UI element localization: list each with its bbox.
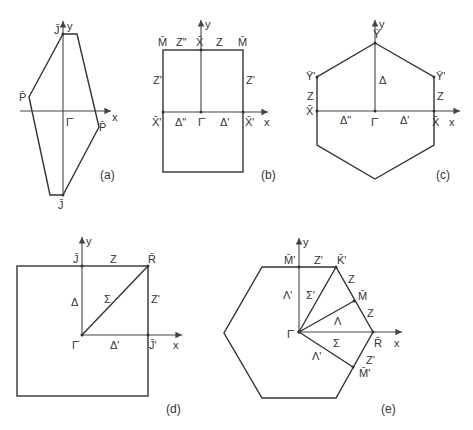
label-X-right-c: X̄ bbox=[432, 116, 440, 128]
caption-b: (b) bbox=[261, 168, 276, 182]
label-Z-right-c: Z bbox=[437, 90, 444, 102]
brillouin-zones-figure: J̄ y P̄ x Γ̄ P̄ J̄ (a) y M̄ Z" X̄ Z M̄ Z… bbox=[0, 0, 473, 430]
label-D1-d: Δ' bbox=[110, 339, 119, 351]
zone-boundary-a bbox=[29, 34, 99, 195]
label-D2-c: Δ" bbox=[340, 114, 351, 126]
label-X-left-c: X̄ bbox=[306, 105, 314, 117]
label-Y1-right: Ȳ' bbox=[436, 70, 445, 82]
label-Z-d: Z bbox=[110, 253, 117, 265]
label-y-d: y bbox=[86, 235, 92, 247]
panel-c: y Ȳ Ȳ' Ȳ' Δ Z Z X̄ Δ" Γ̄ Δ' X̄ x (c) bbox=[306, 18, 460, 182]
label-Gamma-d: Γ̄ bbox=[72, 339, 80, 351]
label-X-top: X̄ bbox=[196, 36, 204, 48]
label-Gamma-e: Γ̄ bbox=[287, 328, 295, 340]
label-P-right: P̄ bbox=[99, 121, 106, 133]
label-Gamma-a: Γ̄ bbox=[66, 116, 74, 128]
label-Z-b: Z bbox=[216, 36, 223, 48]
label-M-right: M̄ bbox=[238, 36, 247, 48]
label-Z1-top: Z' bbox=[314, 254, 323, 266]
label-x-b: x bbox=[264, 116, 270, 128]
label-Z-left-c: Z bbox=[307, 90, 314, 102]
label-J-top: J̄ bbox=[54, 24, 60, 36]
label-Gamma-c: Γ̄ bbox=[371, 116, 379, 128]
label-M-left: M̄ bbox=[158, 36, 167, 48]
label-D1-b: Δ' bbox=[220, 116, 229, 128]
label-Delta-d: Δ bbox=[71, 296, 79, 308]
label-x-a: x bbox=[112, 111, 118, 123]
zone-boundary-b bbox=[163, 50, 243, 172]
caption-a: (a) bbox=[100, 168, 115, 182]
panel-a: J̄ y P̄ x Γ̄ P̄ J̄ (a) bbox=[19, 20, 118, 211]
panel-d: y J̄ Z R̄ Δ Σ Z' Γ̄ Δ' J̄' x (d) bbox=[17, 235, 182, 416]
panel-b: y M̄ Z" X̄ Z M̄ Z' Z' X̄' Δ" Γ̄ Δ' X̄' x… bbox=[152, 18, 276, 182]
label-J1-d: J̄' bbox=[149, 339, 157, 351]
panel-e: y M̄' Z' K̄' Z M̄ Λ' Σ' Z Λ Γ̄ Σ R̄ x Λ'… bbox=[224, 236, 402, 416]
label-R-d: R̄ bbox=[148, 253, 156, 265]
caption-e: (e) bbox=[381, 402, 396, 416]
label-R-e: R̄ bbox=[374, 337, 382, 349]
label-y-b: y bbox=[205, 18, 211, 30]
label-x-d: x bbox=[173, 339, 179, 351]
label-M1-top: M̄' bbox=[284, 254, 295, 266]
label-D1-c: Δ' bbox=[400, 114, 409, 126]
label-J-d: J̄ bbox=[73, 253, 79, 265]
label-Gamma-b: Γ̄ bbox=[198, 116, 206, 128]
label-Y-top: Ȳ bbox=[373, 28, 381, 40]
label-Y1-left: Ȳ' bbox=[306, 70, 315, 82]
label-Sigma-d: Σ bbox=[104, 293, 111, 305]
label-M-mid: M̄ bbox=[358, 290, 367, 302]
label-x-e: x bbox=[394, 337, 400, 349]
label-S1: Σ' bbox=[306, 289, 315, 301]
label-Z-upper: Z bbox=[348, 273, 355, 285]
label-X1-left: X̄' bbox=[152, 116, 161, 128]
label-Z1-lower: Z' bbox=[366, 354, 375, 366]
label-M-lower: M̄' bbox=[359, 367, 370, 379]
label-D2-b: Δ" bbox=[175, 116, 186, 128]
label-K1: K̄' bbox=[337, 254, 346, 266]
label-Z1-right: Z' bbox=[246, 74, 255, 86]
label-L1-lower: Λ' bbox=[312, 350, 321, 362]
label-y-a: y bbox=[67, 20, 73, 32]
label-x-c: x bbox=[449, 116, 455, 128]
label-Z1-left: Z' bbox=[153, 74, 162, 86]
label-Z1-d: Z' bbox=[151, 293, 160, 305]
label-Delta-c: Δ bbox=[379, 74, 387, 86]
lambda1-lower-line-e bbox=[299, 332, 353, 367]
label-J-bottom: J̄ bbox=[58, 199, 64, 211]
label-Z2: Z" bbox=[176, 36, 187, 48]
label-X1-right: X̄' bbox=[245, 116, 254, 128]
label-L1-upper: Λ' bbox=[283, 289, 292, 301]
label-Sigma-e: Σ bbox=[333, 337, 340, 349]
label-Z-mid: Z bbox=[367, 307, 374, 319]
sigma-line-d bbox=[82, 266, 148, 335]
caption-c: (c) bbox=[436, 168, 450, 182]
label-P-left: P̄ bbox=[19, 91, 26, 103]
label-Lambda: Λ bbox=[334, 315, 342, 327]
caption-d: (d) bbox=[166, 402, 181, 416]
label-y-e: y bbox=[303, 236, 309, 248]
